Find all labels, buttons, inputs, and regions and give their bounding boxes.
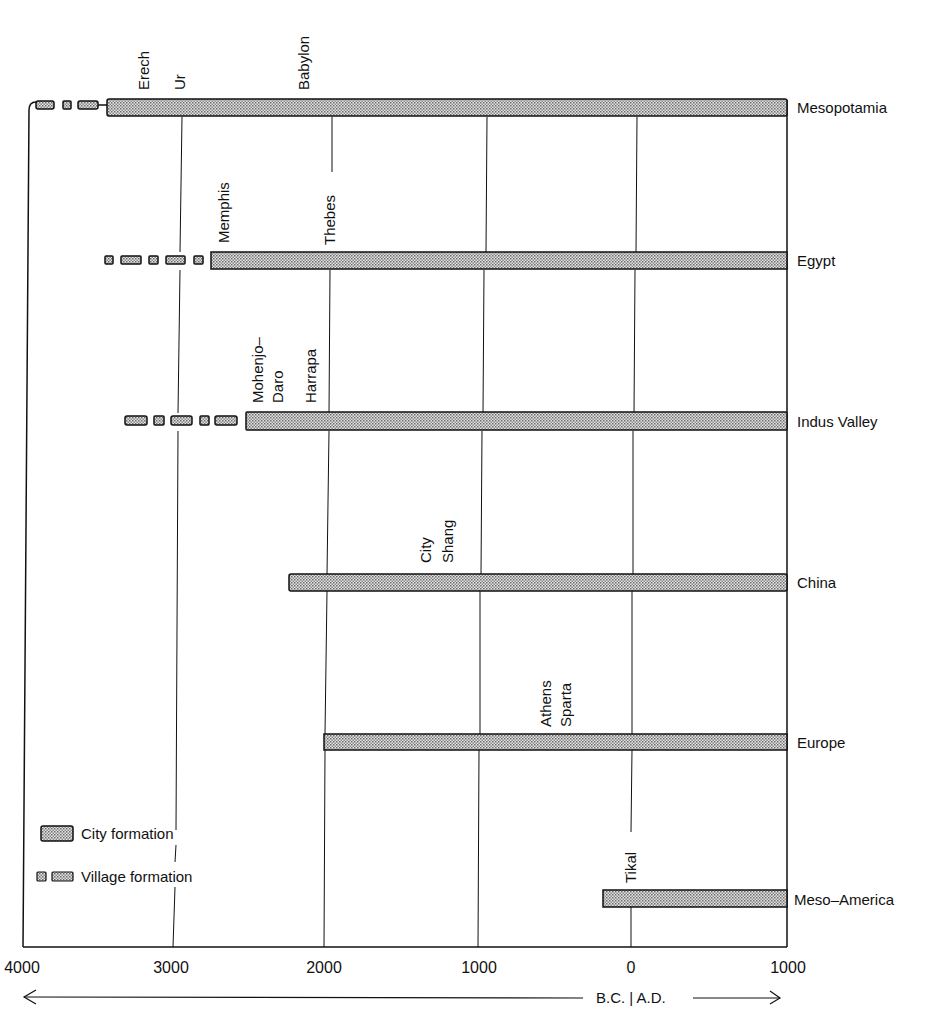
tick-4000bc: 4000 <box>4 959 40 976</box>
city-label-thebes: Thebes <box>321 195 338 245</box>
tick-1000ad: 1000 <box>770 959 806 976</box>
region-labels: Mesopotamia Egypt Indus Valley China Eur… <box>794 99 895 908</box>
city-bar-europe <box>324 734 787 750</box>
city-label-mohenjo: Mohenjo– <box>249 336 266 403</box>
region-label-meso-america: Meso–America <box>794 891 895 908</box>
village-bar-segment <box>171 416 192 425</box>
region-label-mesopotamia: Mesopotamia <box>797 99 888 116</box>
village-bar-segment <box>200 416 209 425</box>
tick-2000bc: 2000 <box>306 959 342 976</box>
village-bar-segment <box>78 101 98 109</box>
legend-label-city: City formation <box>81 825 174 842</box>
chart-frame <box>23 100 787 947</box>
city-label-shang: Shang <box>439 520 456 563</box>
tick-1000bc: 1000 <box>461 959 497 976</box>
x-axis-ticks: 4000 3000 2000 1000 0 1000 <box>4 959 806 976</box>
city-label-erech: Erech <box>135 51 152 90</box>
bar-group-indus-valley <box>125 412 787 430</box>
gridlines <box>173 117 637 947</box>
city-label-athens: Athens <box>537 680 554 727</box>
region-label-europe: Europe <box>797 734 845 751</box>
region-label-egypt: Egypt <box>797 252 836 269</box>
city-annotations: Erech Ur Babylon Memphis Thebes Mohenjo–… <box>135 36 639 883</box>
city-label-city: City <box>417 537 434 563</box>
village-bar-segment <box>121 256 141 264</box>
city-label-babylon: Babylon <box>295 36 312 90</box>
legend-swatch-village <box>52 872 73 881</box>
village-bar-segment <box>63 101 71 109</box>
city-bar-china <box>289 574 787 591</box>
village-bar-segment <box>105 256 113 264</box>
village-bar-segment <box>149 256 158 264</box>
region-label-indus-valley: Indus Valley <box>797 413 878 430</box>
legend-swatch-village-small <box>37 872 46 881</box>
village-bar-segment <box>166 256 185 264</box>
village-bar-segment <box>154 416 164 425</box>
city-bar-meso-america <box>603 890 787 907</box>
village-bar-segment <box>36 101 54 109</box>
legend-swatch-city <box>41 826 73 841</box>
city-bar-egypt <box>211 252 787 269</box>
legend: City formation Village formation <box>37 825 192 885</box>
era-arrow <box>24 990 780 1004</box>
era-label: B.C. | A.D. <box>596 989 666 1006</box>
tick-0: 0 <box>627 959 636 976</box>
tick-3000bc: 3000 <box>153 959 189 976</box>
city-bar-mesopotamia <box>107 99 787 116</box>
city-formation-timeline-chart: Mesopotamia Egypt Indus Valley China Eur… <box>0 0 930 1027</box>
city-label-ur: Ur <box>171 74 188 90</box>
region-label-china: China <box>797 574 837 591</box>
village-bar-segment <box>125 416 147 425</box>
city-label-harrapa: Harrapa <box>302 348 319 403</box>
legend-label-village: Village formation <box>81 868 192 885</box>
bar-group-egypt <box>105 252 787 269</box>
city-bar-indus-valley <box>246 412 787 430</box>
city-label-memphis: Memphis <box>215 182 232 243</box>
bars <box>36 99 787 907</box>
village-bar-segment <box>215 416 237 425</box>
city-label-daro: Daro <box>269 370 286 403</box>
city-label-sparta: Sparta <box>557 682 574 727</box>
bar-group-mesopotamia <box>36 99 787 116</box>
city-label-tikal: Tikal <box>622 852 639 883</box>
village-bar-segment <box>194 256 203 264</box>
left-border <box>23 102 36 947</box>
